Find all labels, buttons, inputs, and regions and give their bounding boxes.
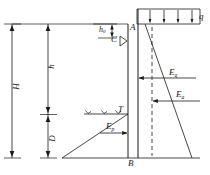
label-point-C: C <box>111 35 117 44</box>
ea-base: E <box>176 89 182 99</box>
eq-base: E <box>169 67 175 77</box>
ep-sub: p <box>112 126 115 132</box>
ground-hatch-group <box>86 111 122 114</box>
support-marker-c <box>120 36 127 46</box>
dimension-line-h-total <box>4 24 21 158</box>
hatch-1 <box>86 111 92 114</box>
label-force-Ep: Ep <box>106 122 114 131</box>
ea-sub: a <box>182 94 185 100</box>
ep-base: E <box>106 121 112 131</box>
label-surcharge-q: q <box>199 12 204 21</box>
d-arrow-bottom <box>46 151 51 157</box>
label-dimension-H: H <box>12 83 21 90</box>
label-force-Eq: Eq <box>169 68 177 77</box>
h-total-arrow-bottom <box>10 151 15 157</box>
h-total-arrow-top <box>10 25 15 31</box>
wedge-hypotenuse <box>62 114 128 158</box>
label-dimension-h: h <box>47 64 56 69</box>
eq-sub: q <box>175 72 178 78</box>
label-point-T: T <box>118 105 123 114</box>
c-support-triangle <box>120 36 127 46</box>
h-arrow-bottom <box>46 107 51 113</box>
h0-arrow-top <box>110 25 114 30</box>
label-point-B: B <box>128 159 134 168</box>
passive-wedge <box>62 114 128 158</box>
retaining-wall-diagram: H h D h0 A C T B q Eq Ea Ep <box>0 0 210 175</box>
label-point-A: A <box>130 23 136 32</box>
hatch-2 <box>102 111 108 114</box>
d-arrow-top <box>46 116 51 122</box>
label-dimension-D: D <box>48 135 57 142</box>
label-force-Ea: Ea <box>176 90 184 99</box>
h0-sub: 0 <box>103 29 105 34</box>
h-arrow-top <box>46 25 51 31</box>
label-dimension-h0: h0 <box>99 26 105 34</box>
surcharge-load-group <box>137 9 200 24</box>
